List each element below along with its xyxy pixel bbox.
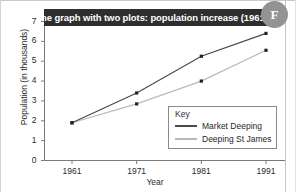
y-tick-0: 0 — [19, 155, 37, 165]
x-tick-1981: 1981 — [181, 166, 221, 176]
legend-label-deeping-st-james: Deeping St James — [202, 134, 271, 144]
chart-svg — [0, 0, 296, 192]
legend-entry-deeping-st-james: Deeping St James — [175, 134, 271, 144]
figure-badge: F — [261, 1, 288, 28]
chart-title-text: Line graph with two plots: population in… — [44, 12, 272, 23]
x-tick-1971: 1971 — [117, 166, 157, 176]
legend-box: Key Market Deeping Deeping St James — [168, 106, 277, 149]
x-axis-title: Year — [100, 177, 210, 187]
y-axis-title: Population (in thousands) — [19, 7, 29, 147]
figure-badge-label: F — [271, 8, 279, 21]
figure-container: 01234567 1961197119811991 Population (in… — [0, 0, 296, 192]
legend-title: Key — [175, 109, 190, 119]
legend-swatch-market-deeping — [175, 125, 197, 127]
legend-swatch-deeping-st-james — [175, 138, 197, 140]
x-tick-1961: 1961 — [52, 166, 92, 176]
legend-label-market-deeping: Market Deeping — [202, 121, 262, 131]
legend-entry-market-deeping: Market Deeping — [175, 121, 262, 131]
chart-title-banner: Line graph with two plots: population in… — [44, 9, 272, 26]
x-tick-1991: 1991 — [246, 166, 286, 176]
plot-area — [0, 0, 296, 192]
